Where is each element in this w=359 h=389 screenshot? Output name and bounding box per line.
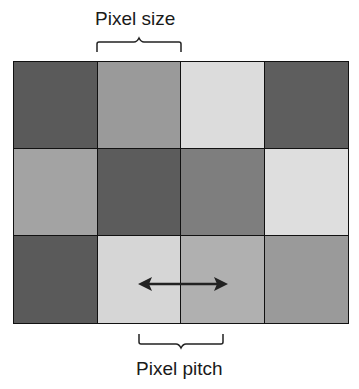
pixel-pitch-label: Pixel pitch xyxy=(136,358,223,380)
pixel-pitch-brace xyxy=(139,334,223,348)
double-headed-arrow-icon xyxy=(138,277,228,291)
pixel-size-brace xyxy=(97,38,181,52)
annotations-layer xyxy=(0,0,359,389)
